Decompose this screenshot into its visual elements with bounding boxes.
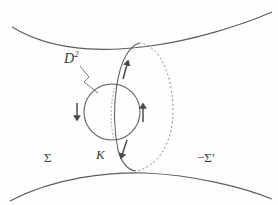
label-knot: K (96, 148, 105, 161)
topology-figure: D2 K Σ −Σ′ (0, 0, 278, 205)
label-disk: D2 (64, 52, 78, 66)
diagram-canvas (0, 0, 278, 205)
label-surface-left: Σ (44, 151, 52, 164)
tube-ellipse-back-arc (136, 43, 173, 171)
label-surface-right: −Σ′ (197, 151, 215, 164)
disk-circle (84, 84, 140, 140)
arrow-tube-upper-left (123, 61, 128, 79)
label-disk-letter: D (64, 51, 74, 66)
label-disk-exponent: 2 (74, 49, 78, 59)
tube-ellipse-front-arc (115, 43, 139, 171)
lower-surface-curve (10, 173, 272, 201)
upper-surface-curve (12, 12, 272, 49)
arrow-tube-lower-left (121, 140, 127, 158)
